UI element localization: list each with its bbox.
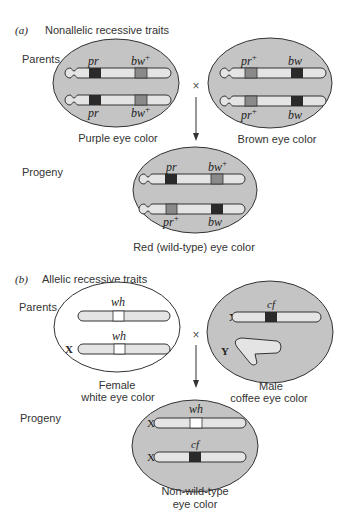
chromosome <box>220 96 326 106</box>
chromosome <box>139 204 245 214</box>
pr-plus-band <box>245 96 257 106</box>
bw-plus-band <box>211 174 223 184</box>
chromosome <box>220 68 326 78</box>
parent-right-caption-a: Brown eye color <box>238 133 317 145</box>
bw-plus-band <box>135 68 147 78</box>
gene-label: pr <box>87 54 99 68</box>
gene-label: pr <box>87 106 99 120</box>
bw-band <box>211 204 223 214</box>
cross-symbol-a: × <box>192 79 199 93</box>
progeny-caption-line2-b: eye color <box>173 498 218 510</box>
gene-label: wh <box>189 402 203 416</box>
genetics-diagram: (a) Nonallelic recessive traits Parents … <box>0 0 346 514</box>
panel-a-title: Nonallelic recessive traits <box>45 24 170 36</box>
parents-label-a: Parents <box>22 53 60 65</box>
gene-label: bw <box>208 215 222 229</box>
pr-band <box>89 95 101 105</box>
parent-left-caption-a: Purple eye color <box>78 132 158 144</box>
cf-band <box>265 312 277 322</box>
parent-right-caption-line2-b: coffee eye color <box>230 392 308 404</box>
parent-right-cell-a: pr+ bw pr+ bw <box>208 38 332 128</box>
arrow-down-icon <box>193 133 199 141</box>
wh-band <box>114 344 125 354</box>
parents-label-b: Parents <box>19 301 57 313</box>
pr-band <box>89 68 101 78</box>
pr-band <box>165 174 177 184</box>
pr-plus-band <box>245 68 257 78</box>
wh-band <box>113 311 124 321</box>
panel-a: (a) Nonallelic recessive traits Parents … <box>15 24 332 253</box>
parent-left-caption-line1-b: Female <box>99 379 136 391</box>
chromosome-label: Y <box>221 345 229 357</box>
cross-symbol-b: × <box>192 328 199 342</box>
progeny-caption-line1-b: Non-wild-type <box>161 485 228 497</box>
progeny-cell-a: pr bw+ pr+ bw <box>133 147 257 233</box>
parent-left-cell-b: wh X wh <box>54 282 180 372</box>
gene-label: wh <box>112 329 126 343</box>
gene-label: bw <box>288 54 302 68</box>
chromosome-label: X <box>65 343 73 355</box>
bw-band <box>291 96 303 106</box>
progeny-caption-a: Red (wild-type) eye color <box>133 241 255 253</box>
parent-left-caption-line2-b: white eye color <box>80 391 155 403</box>
parent-left-cell-a: pr bw+ pr bw+ <box>53 39 179 127</box>
progeny-label-a: Progeny <box>22 166 63 178</box>
chromosome <box>139 174 245 184</box>
gene-label: wh <box>111 295 125 309</box>
parent-right-cell-b: X cf Y <box>207 281 333 383</box>
panel-b-label: (b) <box>15 273 28 286</box>
bw-band <box>291 68 303 78</box>
panel-a-label: (a) <box>15 24 28 37</box>
gene-label: pr <box>165 160 177 174</box>
cf-band <box>189 452 201 462</box>
wh-band <box>190 418 202 428</box>
panel-b: (b) Allelic recessive traits Parents wh … <box>15 273 333 510</box>
chromosome <box>65 68 171 78</box>
progeny-label-b: Progeny <box>20 412 61 424</box>
progeny-cell-b: X wh X cf <box>132 400 258 492</box>
parent-right-caption-line1-b: Male <box>259 380 283 392</box>
chromosome <box>65 95 171 105</box>
arrow-down-icon <box>193 380 199 388</box>
gene-label: bw <box>288 108 302 122</box>
